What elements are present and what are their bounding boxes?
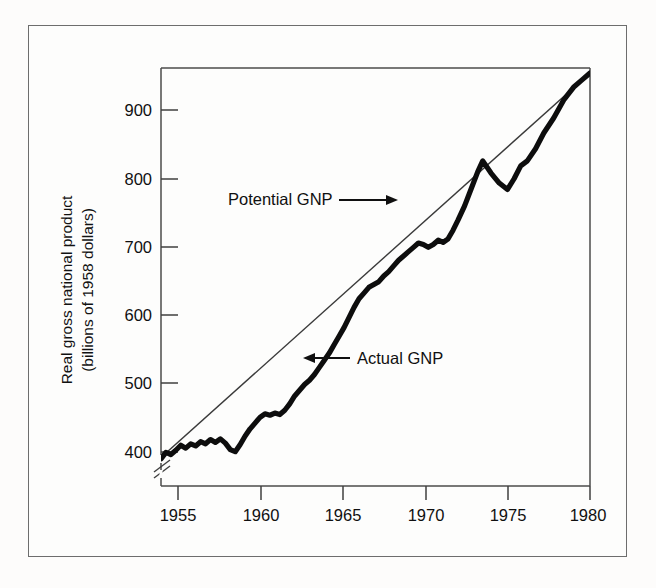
x-tick-label-1960: 1960 [243, 506, 280, 524]
arrow-right-icon [339, 195, 398, 205]
y-axis-title-line2: (billions of 1958 dollars) [79, 208, 96, 372]
plot-series-group [161, 73, 590, 459]
y-tick-label-700: 700 [124, 238, 152, 256]
y-tick-label-600: 600 [124, 306, 152, 324]
y-axis-title: Real gross national product (billions of… [58, 195, 96, 384]
gnp-figure: 900 800 700 600 500 400 1955 1960 [0, 0, 656, 588]
annotation-potential-gnp-label: Potential GNP [228, 190, 333, 208]
y-axis-title-line1: Real gross national product [58, 195, 75, 384]
x-tick-label-1955: 1955 [160, 506, 197, 524]
gnp-chart: 900 800 700 600 500 400 1955 1960 [0, 0, 656, 588]
y-tick-label-800: 800 [124, 170, 152, 188]
y-tick-label-400: 400 [124, 443, 152, 461]
x-axis-ticks [178, 486, 590, 500]
series-potential-gnp [161, 73, 590, 457]
y-axis-ticks [161, 110, 178, 452]
x-tick-label-1970: 1970 [408, 506, 445, 524]
y-axis-tick-labels: 900 800 700 600 500 400 [124, 101, 152, 461]
x-axis-tick-labels: 1955 1960 1965 1970 1975 1980 [160, 506, 607, 524]
x-tick-label-1965: 1965 [325, 506, 362, 524]
y-tick-label-900: 900 [124, 101, 152, 119]
x-tick-label-1980: 1980 [570, 506, 607, 524]
annotation-actual-gnp-label: Actual GNP [357, 349, 443, 367]
x-tick-label-1975: 1975 [490, 506, 527, 524]
annotation-potential-gnp: Potential GNP [228, 190, 398, 208]
y-tick-label-500: 500 [124, 374, 152, 392]
